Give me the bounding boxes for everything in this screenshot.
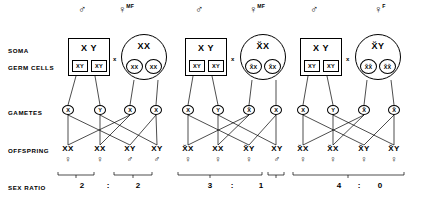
cross-connector-lines: [0, 0, 432, 204]
genetics-diagram-canvas: SOMA GERM CELLS GAMETES OFFSPRING SEX RA…: [0, 0, 432, 204]
